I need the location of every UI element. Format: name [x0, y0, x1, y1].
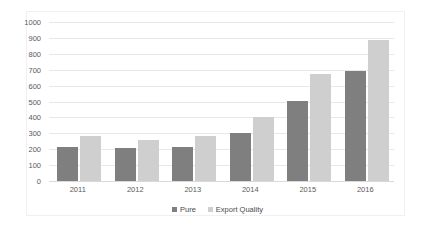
bar-chart: 01002003004005006007008009001000 2011201…: [0, 0, 435, 239]
bar-2013-pure[interactable]: [172, 147, 193, 181]
bar-2016-export-quality[interactable]: [368, 40, 389, 181]
bar-2014-pure[interactable]: [230, 133, 251, 181]
x-tick-label-2016: 2016: [337, 185, 395, 194]
y-tick-label-700: 700: [28, 65, 41, 74]
legend-swatch-icon: [172, 207, 177, 212]
bar-group-2014: [222, 22, 280, 181]
y-tick-label-900: 900: [28, 33, 41, 42]
gridline-0: [49, 181, 394, 182]
legend-label: Export Quality: [216, 205, 263, 214]
bar-2015-export-quality[interactable]: [310, 74, 331, 181]
y-tick-label-100: 100: [28, 161, 41, 170]
x-tick-label-2011: 2011: [49, 185, 107, 194]
legend-swatch-icon: [208, 207, 213, 212]
x-tick-label-2013: 2013: [164, 185, 222, 194]
bar-2013-export-quality[interactable]: [195, 136, 216, 181]
bars-layer: [49, 22, 394, 181]
legend-item-pure[interactable]: Pure: [172, 205, 196, 214]
bar-2012-pure[interactable]: [115, 148, 136, 181]
bar-group-2012: [107, 22, 165, 181]
bar-group-2013: [164, 22, 222, 181]
y-tick-label-0: 0: [37, 177, 41, 186]
y-tick-label-600: 600: [28, 81, 41, 90]
y-tick-label-400: 400: [28, 113, 41, 122]
bar-2016-pure[interactable]: [345, 71, 366, 182]
y-tick-label-500: 500: [28, 97, 41, 106]
bar-2015-pure[interactable]: [287, 101, 308, 181]
bar-group-2016: [337, 22, 395, 181]
bar-2012-export-quality[interactable]: [138, 140, 159, 181]
bar-2011-export-quality[interactable]: [80, 136, 101, 181]
bar-group-2015: [279, 22, 337, 181]
legend-label: Pure: [180, 205, 196, 214]
y-tick-label-200: 200: [28, 145, 41, 154]
x-tick-label-2012: 2012: [107, 185, 165, 194]
y-tick-label-300: 300: [28, 129, 41, 138]
bar-group-2011: [49, 22, 107, 181]
chart-legend: PureExport Quality: [0, 205, 435, 214]
legend-item-export-quality[interactable]: Export Quality: [208, 205, 263, 214]
y-tick-label-800: 800: [28, 49, 41, 58]
bar-2011-pure[interactable]: [57, 147, 78, 181]
x-axis: 201120122013201420152016: [49, 185, 394, 199]
y-tick-label-1000: 1000: [24, 18, 41, 27]
x-tick-label-2015: 2015: [279, 185, 337, 194]
y-axis: 01002003004005006007008009001000: [0, 22, 45, 181]
x-tick-label-2014: 2014: [222, 185, 280, 194]
bar-2014-export-quality[interactable]: [253, 117, 274, 181]
